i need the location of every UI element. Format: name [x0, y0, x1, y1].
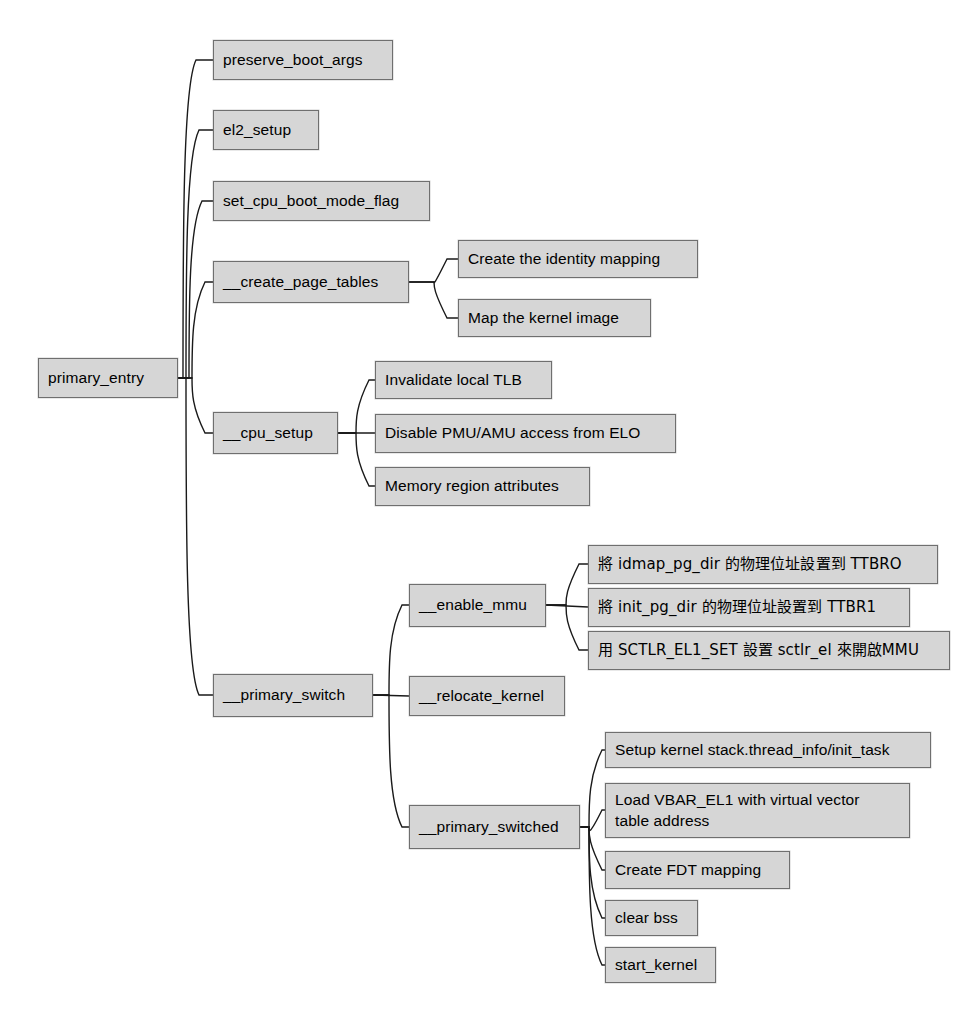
edge-e-psw-mmu — [373, 605, 409, 695]
node-clear_bss[interactable]: clear bss — [605, 900, 698, 936]
node-preserve_boot_args[interactable]: preserve_boot_args — [213, 40, 393, 80]
edge-e-psw-switched — [373, 695, 409, 827]
node-load_vbar_el1[interactable]: Load VBAR_EL1 with virtual vector table … — [605, 783, 910, 838]
node-primary_entry[interactable]: primary_entry — [38, 358, 178, 398]
edge-e-mmu-sctlr — [546, 605, 588, 650]
node-create_identity_mapping[interactable]: Create the identity mapping — [458, 240, 698, 278]
edge-e-psw-reloc — [373, 695, 409, 696]
edge-layer — [0, 0, 963, 1017]
node-setup_kernel_stack[interactable]: Setup kernel stack.thread_info/init_task — [605, 732, 931, 768]
node-create_page_tables[interactable]: __create_page_tables — [213, 261, 409, 303]
node-relocate_kernel[interactable]: __relocate_kernel — [409, 676, 565, 716]
edge-e-cpu-tlb — [338, 380, 375, 433]
node-start_kernel[interactable]: start_kernel — [605, 947, 716, 983]
edge-e-sw-fdt — [580, 827, 605, 870]
edge-e-cpt-identity — [409, 259, 458, 283]
edge-e-root-cpt — [178, 282, 213, 378]
node-primary_switch[interactable]: __primary_switch — [213, 674, 373, 717]
edge-e-root-setcpu — [178, 201, 213, 378]
node-enable_mmu[interactable]: __enable_mmu — [409, 584, 546, 627]
node-create_fdt_mapping[interactable]: Create FDT mapping — [605, 851, 790, 889]
edge-e-mmu-ttbr0 — [546, 564, 588, 605]
node-invalidate_local_tlb[interactable]: Invalidate local TLB — [375, 361, 552, 399]
node-set_cpu_boot_mode_flag[interactable]: set_cpu_boot_mode_flag — [213, 181, 430, 221]
node-sctlr_enable_mmu[interactable]: 用 SCTLR_EL1_SET 設置 sctlr_el 來開啟MMU — [588, 631, 950, 670]
edge-e-sw-stack — [580, 750, 605, 827]
edge-e-cpt-mapkernel — [409, 282, 458, 318]
edge-e-root-preserve — [178, 60, 213, 378]
node-memory_region_attributes[interactable]: Memory region attributes — [375, 467, 590, 506]
node-ttbr0_set[interactable]: 將 idmap_pg_dir 的物理位址設置到 TTBRO — [588, 545, 938, 584]
edge-e-root-cpusetup — [178, 378, 213, 433]
node-el2_setup[interactable]: el2_setup — [213, 110, 319, 150]
node-map_kernel_image[interactable]: Map the kernel image — [458, 299, 651, 337]
edge-e-sw-startkernel — [580, 827, 605, 965]
node-ttbr1_set[interactable]: 將 init_pg_dir 的物理位址設置到 TTBR1 — [588, 588, 910, 627]
edge-e-root-pswitch — [178, 378, 213, 695]
diagram-canvas: primary_entrypreserve_boot_argsel2_setup… — [0, 0, 963, 1017]
node-primary_switched[interactable]: __primary_switched — [409, 805, 580, 849]
edge-e-mmu-ttbr1 — [546, 605, 588, 607]
node-disable_pmu_amu[interactable]: Disable PMU/AMU access from ELO — [375, 414, 676, 453]
edge-e-sw-bss — [580, 827, 605, 918]
edge-e-sw-vbar — [580, 810, 605, 830]
edge-e-root-el2 — [178, 130, 213, 378]
node-cpu_setup[interactable]: __cpu_setup — [213, 412, 338, 454]
edge-e-cpu-memattr — [338, 433, 375, 486]
